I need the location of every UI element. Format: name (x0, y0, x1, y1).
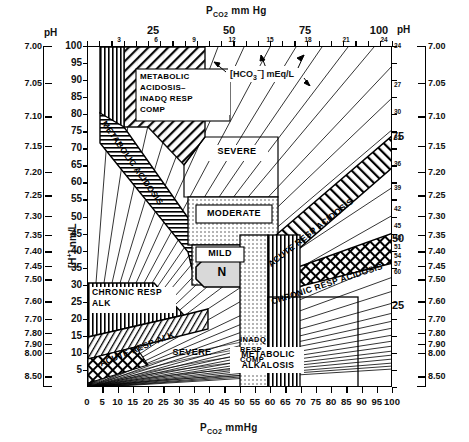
top-tick (124, 41, 125, 46)
ph-label-left-7.15: 7.15 (0, 141, 42, 151)
x-tick-20 (148, 387, 149, 393)
h-plus-tick-45 (83, 234, 87, 235)
h-plus-tick-75 (83, 131, 87, 132)
x-tick-15 (133, 387, 134, 393)
top-tick-25: 25 (140, 24, 166, 36)
ph-label-left-7.45: 7.45 (0, 261, 42, 271)
top-tick (282, 41, 283, 46)
ph-label-right-7.20: 7.20 (428, 167, 446, 177)
ph-tick-left-7.25 (45, 195, 52, 196)
top-hco3-12: 12 (225, 36, 239, 43)
h-plus-label-30: 30 (60, 279, 82, 290)
h-plus-label-35: 35 (60, 262, 82, 273)
h-plus-label-25: 25 (60, 296, 82, 307)
zone-metabolic-alkalosis: METABOLIC ALKALOSIS (232, 349, 304, 371)
top-tick (111, 41, 112, 46)
ph-tick-right-7.05 (418, 83, 425, 84)
ph-label-right-7.05: 7.05 (428, 78, 446, 88)
ph-label-left-7.25: 7.25 (0, 190, 42, 200)
right-tick (392, 336, 397, 337)
top-tick (270, 41, 271, 46)
x-tick-70 (301, 387, 302, 393)
ph-tick-right-7.35 (418, 235, 425, 236)
top-tick (380, 41, 381, 46)
ph-label-left-7.80: 7.80 (0, 328, 42, 338)
right-hco3-42: 42 (394, 205, 401, 212)
ph-tick-left-7.60 (45, 301, 52, 302)
h-plus-tick-85 (83, 97, 87, 98)
bottom-axis-title: PCO2 mmHg (200, 423, 258, 435)
top-tick (87, 41, 88, 46)
top-tick (197, 41, 198, 46)
top-tick (99, 41, 100, 46)
ph-label-right-7.35: 7.35 (428, 230, 446, 240)
right-hco3-54: 54 (394, 252, 401, 259)
x-tick-75 (316, 387, 317, 393)
x-tick-95 (377, 387, 378, 393)
ph-tick-left-7.80 (45, 333, 52, 334)
top-tick (258, 41, 259, 46)
h-plus-label-75: 75 (60, 125, 82, 136)
ph-label-right-8.00: 8.00 (428, 348, 446, 358)
hco3-legend-label: [HCO3−] mEq/L (228, 66, 296, 82)
x-tick-60 (270, 387, 271, 393)
ph-tick-left-7.00 (45, 46, 52, 47)
ph-tick-left-7.15 (45, 146, 52, 147)
zone-chronic-resp-alk: CHRONIC RESP ALK (92, 287, 178, 309)
top-tick (319, 41, 320, 46)
ph-label-right-7.70: 7.70 (428, 314, 446, 324)
ph-label-left-7.10: 7.10 (0, 111, 42, 121)
right-tick (392, 46, 397, 47)
x-tick-5 (102, 387, 103, 393)
right-tick (392, 234, 397, 235)
h-plus-label-65: 65 (60, 159, 82, 170)
x-tick-50 (240, 387, 241, 393)
x-tick-45 (224, 387, 225, 393)
ph-tick-right-7.30 (418, 216, 425, 217)
ph-label-right-7.30: 7.30 (428, 211, 446, 221)
top-tick (233, 41, 234, 46)
h-plus-tick-30 (83, 285, 87, 286)
ph-tick-left-7.30 (45, 216, 52, 217)
right-hco3-45: 45 (394, 222, 401, 229)
nomogram-figure: PCO2 mm Hg 25 50 75 100 pH 3 6 9 12 15 1… (0, 0, 469, 442)
top-tick (160, 41, 161, 46)
right-tick (392, 268, 397, 269)
top-tick (307, 41, 308, 46)
right-hco3-27: 27 (394, 81, 401, 88)
x-label-100: 100 (381, 396, 403, 407)
ph-tick-right-7.90 (418, 344, 425, 345)
ph-label-right-7.25: 7.25 (428, 190, 446, 200)
ph-tick-right-7.60 (418, 301, 425, 302)
ph-tick-right-7.70 (418, 319, 425, 320)
h-plus-label-70: 70 (60, 142, 82, 153)
ph-tick-right-7.40 (418, 251, 425, 252)
right-tick (392, 114, 397, 115)
h-plus-label-85: 85 (60, 91, 82, 102)
ph-label-right-7.40: 7.40 (428, 246, 446, 256)
top-tick (331, 41, 332, 46)
h-plus-tick-5 (83, 370, 87, 371)
top-tick (148, 41, 149, 46)
left-ph-header: pH (44, 28, 57, 38)
ph-label-right-8.50: 8.50 (428, 371, 446, 381)
h-plus-label-5: 5 (60, 364, 82, 375)
h-plus-tick-20 (83, 319, 87, 320)
ph-label-left-7.00: 7.00 (0, 41, 42, 51)
x-tick-55 (255, 387, 256, 393)
right-tick (392, 63, 397, 64)
right-tick (392, 319, 397, 320)
h-plus-label-95: 95 (60, 57, 82, 68)
top-hco3-21: 21 (339, 36, 353, 43)
top-tick-100: 100 (366, 24, 392, 36)
top-tick (368, 41, 369, 46)
h-plus-label-45: 45 (60, 228, 82, 239)
ph-tick-right-7.25 (418, 195, 425, 196)
h-plus-tick-10 (83, 353, 87, 354)
ph-label-left-7.05: 7.05 (0, 78, 42, 88)
ph-tick-right-8.00 (418, 353, 425, 354)
ph-tick-left-7.20 (45, 172, 52, 173)
right-tick (392, 251, 397, 252)
h-plus-tick-40 (83, 251, 87, 252)
ph-label-left-8.50: 8.50 (0, 371, 42, 381)
